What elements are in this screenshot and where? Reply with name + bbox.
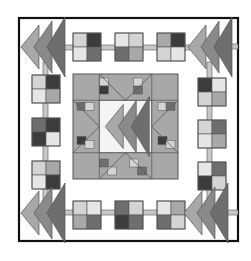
four-patch-top-3-square bbox=[157, 33, 171, 47]
four-patch-left-3-square bbox=[32, 175, 46, 189]
four-patch-bottom-1-square bbox=[73, 201, 87, 215]
four-patch-left-1-square bbox=[46, 75, 60, 89]
four-patch-bottom-1-square bbox=[87, 201, 101, 215]
star-patch bbox=[85, 102, 94, 110]
four-patch-top-1-square bbox=[87, 47, 101, 61]
four-patch-right-2-square bbox=[198, 134, 212, 148]
four-patch-right-1-square bbox=[212, 92, 226, 106]
four-patch-top-2-square bbox=[129, 33, 143, 47]
four-patch-left-2-square bbox=[46, 132, 60, 146]
star-patch bbox=[130, 159, 139, 167]
four-patch-right-3-square bbox=[198, 162, 212, 176]
four-patch-right-1-square bbox=[198, 92, 212, 106]
star-patch bbox=[158, 102, 167, 110]
star-patch bbox=[166, 102, 175, 110]
four-patch-bottom-1-square bbox=[73, 215, 87, 229]
quilt-block bbox=[19, 17, 238, 243]
star-patch bbox=[77, 137, 86, 145]
star-patch bbox=[85, 141, 94, 149]
four-patch-left-2-square bbox=[46, 118, 60, 132]
four-patch-top-2-square bbox=[115, 47, 129, 61]
four-patch-bottom-1-square bbox=[87, 215, 101, 229]
four-patch-bottom-3-square bbox=[171, 201, 185, 215]
quilt-canvas bbox=[0, 0, 251, 261]
four-patch-top-3-square bbox=[171, 33, 185, 47]
star-patch bbox=[99, 159, 108, 167]
four-patch-top-1-square bbox=[87, 33, 101, 47]
four-patch-bottom-2-square bbox=[129, 201, 143, 215]
four-patch-top-3-square bbox=[157, 47, 171, 61]
four-patch-right-1-square bbox=[212, 78, 226, 92]
star-patch bbox=[99, 86, 108, 94]
four-patch-top-1-square bbox=[73, 33, 87, 47]
four-patch-right-3-square bbox=[212, 162, 226, 176]
four-patch-left-1-square bbox=[32, 89, 46, 103]
four-patch-right-1-square bbox=[198, 78, 212, 92]
four-patch-right-2-square bbox=[212, 134, 226, 148]
four-patch-right-3-square bbox=[198, 176, 212, 190]
four-patch-bottom-3-square bbox=[157, 215, 171, 229]
four-patch-bottom-2-square bbox=[129, 215, 143, 229]
four-patch-left-2-square bbox=[32, 132, 46, 146]
four-patch-bottom-2-square bbox=[115, 201, 129, 215]
star-patch bbox=[138, 167, 147, 175]
four-patch-right-2-square bbox=[198, 120, 212, 134]
four-patch-bottom-3-square bbox=[171, 215, 185, 229]
four-patch-left-2-square bbox=[32, 118, 46, 132]
four-patch-left-3-square bbox=[46, 161, 60, 175]
four-patch-bottom-3-square bbox=[157, 201, 171, 215]
four-patch-left-1-square bbox=[32, 75, 46, 89]
four-patch-top-2-square bbox=[115, 33, 129, 47]
four-patch-top-2-square bbox=[129, 47, 143, 61]
four-patch-right-2-square bbox=[212, 120, 226, 134]
four-patch-top-1-square bbox=[73, 47, 87, 61]
four-patch-left-1-square bbox=[46, 89, 60, 103]
four-patch-top-3-square bbox=[171, 47, 185, 61]
four-patch-bottom-2-square bbox=[115, 215, 129, 229]
four-patch-left-3-square bbox=[32, 161, 46, 175]
four-patch-left-3-square bbox=[46, 175, 60, 189]
star-patch bbox=[107, 167, 116, 175]
